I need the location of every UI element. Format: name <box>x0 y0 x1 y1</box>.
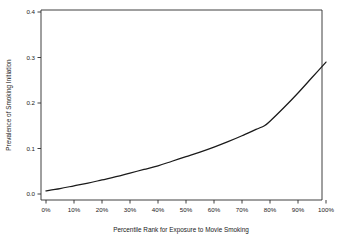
y-tick-label: 0.3 <box>26 54 35 61</box>
data-curve <box>46 62 326 191</box>
x-tick-label: 20% <box>96 206 109 213</box>
x-tick-label: 70% <box>236 206 249 213</box>
chart-figure: 0.00.10.20.30.4 0%10%20%30%40%50%60%70%8… <box>0 0 341 240</box>
x-axis-tick-labels: 0%10%20%30%40%50%60%70%80%90%100% <box>42 206 335 213</box>
x-tick-label: 0% <box>42 206 51 213</box>
x-tick-label: 50% <box>180 206 193 213</box>
x-tick-label: 100% <box>318 206 334 213</box>
plot-border <box>41 10 322 200</box>
line-chart-canvas: 0.00.10.20.30.4 0%10%20%30%40%50%60%70%8… <box>0 0 341 240</box>
x-tick-label: 90% <box>292 206 305 213</box>
y-tick-label: 0.4 <box>26 8 35 15</box>
x-tick-label: 40% <box>152 206 165 213</box>
y-tick-label: 0.2 <box>26 99 35 106</box>
plot-frame <box>41 10 322 200</box>
y-tick-label: 0.1 <box>26 145 35 152</box>
x-tick-label: 80% <box>264 206 277 213</box>
y-axis-ticks <box>38 12 42 194</box>
x-tick-label: 60% <box>208 206 221 213</box>
data-series-group <box>46 62 326 191</box>
x-tick-label: 10% <box>68 206 81 213</box>
x-axis-ticks <box>46 200 326 204</box>
y-axis-title: Prevalence of Smoking Initiation <box>5 59 13 151</box>
x-axis-title: Percentile Rank for Exposure to Movie Sm… <box>113 226 249 234</box>
x-tick-label: 30% <box>124 206 137 213</box>
y-axis-tick-labels: 0.00.10.20.30.4 <box>26 8 35 197</box>
y-tick-label: 0.0 <box>26 190 35 197</box>
